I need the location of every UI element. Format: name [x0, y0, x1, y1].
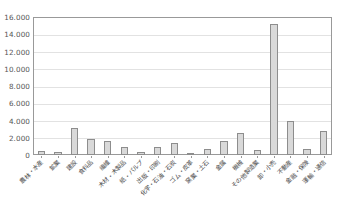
x-tick [58, 156, 59, 158]
x-tick-label: 鉱業 [48, 159, 61, 172]
bar [204, 149, 211, 155]
x-tick [191, 156, 192, 158]
x-tick [75, 156, 76, 158]
bar [303, 149, 310, 155]
bar [270, 24, 277, 155]
y-tick-label: 16.000 [4, 13, 30, 22]
x-tick [108, 156, 109, 158]
y-tick-label: 8.000 [9, 82, 30, 91]
bar [38, 151, 45, 155]
bar [104, 141, 111, 155]
x-axis: 農林・水産鉱業建設食料品繊維木材・木製品紙・パルプ出版・印刷化学・石油・石炭ゴム… [33, 156, 332, 213]
y-tick-label: 0 [25, 151, 30, 160]
bar [121, 147, 128, 155]
y-tick-label: 14.000 [4, 30, 30, 39]
y-tick-label: 12.000 [4, 47, 30, 56]
bar [187, 153, 194, 155]
x-tick [324, 156, 325, 158]
bar [171, 143, 178, 156]
x-tick [91, 156, 92, 158]
y-tick-label: 2.000 [9, 133, 30, 142]
y-tick-label: 10.000 [4, 64, 30, 73]
bars-layer [33, 17, 332, 155]
x-tick [274, 156, 275, 158]
bar [87, 139, 94, 155]
x-tick [174, 156, 175, 158]
bar [254, 150, 261, 155]
x-tick-label: 食料品 [77, 159, 94, 176]
bar [320, 131, 327, 155]
x-tick [241, 156, 242, 158]
y-axis: 16.00014.00012.00010.0008.0006.0004.0002… [0, 17, 30, 155]
x-tick [41, 156, 42, 158]
bar [137, 152, 144, 155]
x-tick-label: 金属 [215, 159, 228, 172]
bar-chart: 16.00014.00012.00010.0008.0006.0004.0002… [0, 0, 340, 213]
bar [154, 147, 161, 155]
bar [287, 121, 294, 155]
bar [220, 141, 227, 155]
bar [54, 152, 61, 155]
x-tick [124, 156, 125, 158]
bar [71, 128, 78, 155]
x-tick [224, 156, 225, 158]
x-tick [290, 156, 291, 158]
x-tick-label: 農林・水産 [19, 159, 45, 185]
x-tick [158, 156, 159, 158]
y-tick-label: 4.000 [9, 116, 30, 125]
x-tick [307, 156, 308, 158]
x-tick [141, 156, 142, 158]
x-tick [257, 156, 258, 158]
y-tick-label: 6.000 [9, 99, 30, 108]
bar [237, 133, 244, 155]
x-tick [207, 156, 208, 158]
